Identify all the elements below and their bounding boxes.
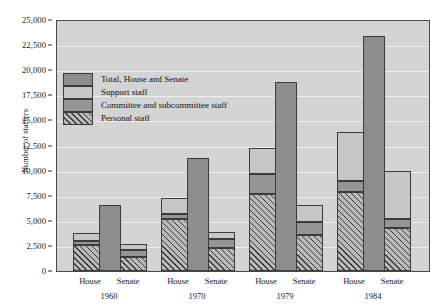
x-axis-label-house: House <box>255 276 277 286</box>
x-axis-label-house: House <box>343 276 365 286</box>
x-axis-year-1960: 1960 <box>101 291 118 301</box>
legend-swatch-total <box>63 73 93 86</box>
y-axis-tick-mark <box>48 120 52 121</box>
bar-total-1970 <box>187 158 209 271</box>
y-axis-tick-mark <box>48 220 52 221</box>
x-axis-label-senate: Senate <box>293 276 316 286</box>
chart-legend: Total, House and SenateSupport staffComm… <box>63 73 93 125</box>
x-axis-label-house: House <box>167 276 189 286</box>
y-axis-tick-mark <box>48 95 52 96</box>
bar-total-1960 <box>99 205 121 271</box>
y-axis-tick-label: 25,000 <box>22 15 46 25</box>
y-axis-tick-mark <box>48 170 52 171</box>
y-axis-tick-label: 2,500 <box>26 241 46 251</box>
legend-item: Support staff <box>63 86 93 99</box>
x-axis-label-senate: Senate <box>117 276 140 286</box>
x-axis-year-1970: 1970 <box>189 291 206 301</box>
x-axis-year-1984: 1984 <box>365 291 382 301</box>
legend-item: Total, House and Senate <box>63 73 93 86</box>
legend-swatch-committee <box>63 99 93 112</box>
y-axis-tick-mark <box>48 20 52 21</box>
legend-swatch-support <box>63 86 93 99</box>
legend-item: Committee and subcommittee staff <box>63 99 93 112</box>
chart-container: 02,5005,0007,50010,00012,50015,00017,500… <box>0 0 443 306</box>
y-axis-tick-mark <box>48 45 52 46</box>
y-axis-tick-mark <box>48 245 52 246</box>
y-axis-title: Number of staffers <box>20 66 30 216</box>
x-axis-year-1979: 1979 <box>277 291 294 301</box>
legend-label-personal: Personal staff <box>101 112 150 125</box>
y-axis-tick-label: 5,000 <box>26 216 46 226</box>
y-axis-tick-mark <box>48 195 52 196</box>
plot-area <box>56 20 430 272</box>
x-axis-label-house: House <box>79 276 101 286</box>
legend-label-support: Support staff <box>101 86 148 99</box>
y-axis-tick-label: 22,500 <box>22 40 46 50</box>
x-axis-label-senate: Senate <box>205 276 228 286</box>
legend-label-total: Total, House and Senate <box>101 73 188 86</box>
y-axis-tick-mark <box>48 271 52 272</box>
bar-total-1984 <box>363 36 385 271</box>
y-axis-tick-label: 0 <box>42 266 46 276</box>
legend-swatch-personal <box>63 112 93 125</box>
bar-total-1979 <box>275 82 297 271</box>
legend-label-committee: Committee and subcommittee staff <box>101 99 227 112</box>
y-axis-tick-mark <box>48 70 52 71</box>
x-axis-label-senate: Senate <box>381 276 404 286</box>
y-axis-tick-mark <box>48 145 52 146</box>
legend-item: Personal staff <box>63 112 93 125</box>
